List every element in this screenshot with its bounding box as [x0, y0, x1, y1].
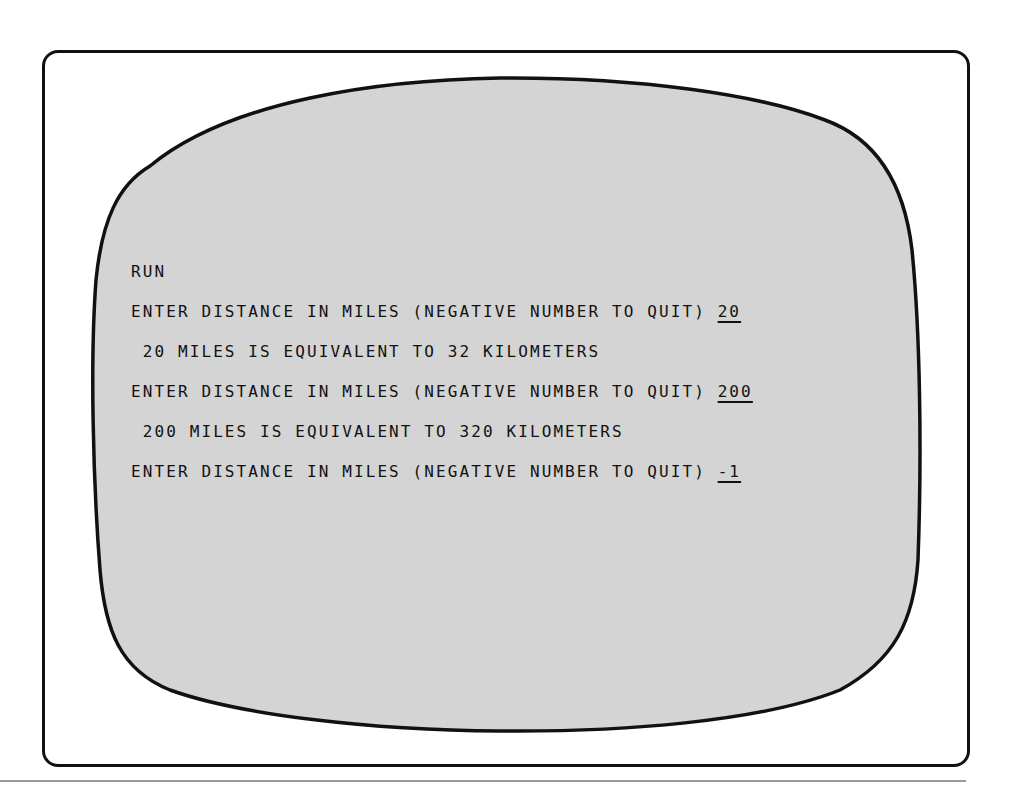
user-input[interactable]: -1 — [718, 462, 741, 481]
terminal-line: ENTER DISTANCE IN MILES (NEGATIVE NUMBER… — [131, 382, 753, 402]
terminal-line: 20 MILES IS EQUIVALENT TO 32 KILOMETERS — [131, 342, 600, 362]
user-input[interactable]: 20 — [718, 302, 741, 321]
crt-screen-shape — [93, 78, 920, 731]
terminal-line: ENTER DISTANCE IN MILES (NEGATIVE NUMBER… — [131, 302, 741, 322]
divider-line — [0, 780, 966, 782]
line-text: RUN — [131, 262, 166, 281]
terminal-line: 200 MILES IS EQUIVALENT TO 320 KILOMETER… — [131, 422, 624, 442]
prompt-text: ENTER DISTANCE IN MILES (NEGATIVE NUMBER… — [131, 382, 718, 401]
terminal-line: ENTER DISTANCE IN MILES (NEGATIVE NUMBER… — [131, 462, 741, 482]
result-text: 20 MILES IS EQUIVALENT TO 32 KILOMETERS — [131, 342, 600, 361]
prompt-text: ENTER DISTANCE IN MILES (NEGATIVE NUMBER… — [131, 462, 718, 481]
terminal-line: RUN — [131, 262, 166, 282]
user-input[interactable]: 200 — [718, 382, 753, 401]
prompt-text: ENTER DISTANCE IN MILES (NEGATIVE NUMBER… — [131, 302, 718, 321]
result-text: 200 MILES IS EQUIVALENT TO 320 KILOMETER… — [131, 422, 624, 441]
